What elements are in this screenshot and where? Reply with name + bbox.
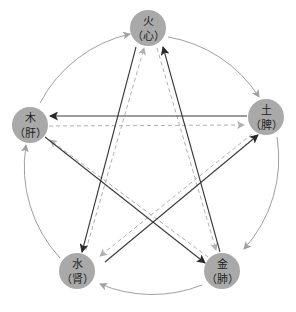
- line-metal-to-fire: [163, 47, 220, 252]
- organ-label: （心）: [132, 30, 165, 43]
- five-elements-diagram: 火 （心） 土 （脾） 金 （肺） 水 （肾） 木 （肝）: [0, 0, 296, 312]
- node-metal: 金 （肺）: [204, 253, 240, 289]
- dash-wood-to-earth: [49, 125, 244, 126]
- element-label: 土: [261, 104, 272, 117]
- line-fire-to-water: [82, 47, 136, 252]
- arc-metal-to-water: [100, 284, 202, 295]
- element-label: 水: [72, 258, 83, 271]
- node-fire: 火 （心）: [130, 10, 166, 46]
- arc-water-to-wood: [24, 145, 60, 258]
- arc-wood-to-fire: [40, 34, 130, 103]
- dash-metal-to-wood: [50, 140, 208, 257]
- generating-cycle: [24, 34, 278, 295]
- element-label: 火: [143, 15, 154, 28]
- insulting-cycle: [49, 48, 252, 257]
- dash-fire-to-metal: [157, 48, 216, 250]
- line-water-to-earth: [105, 135, 258, 262]
- dash-water-to-fire: [86, 48, 144, 250]
- line-wood-to-metal: [45, 137, 205, 263]
- organ-label: （脾）: [250, 118, 283, 132]
- node-water: 水 （肾）: [59, 253, 95, 289]
- organ-label: （肺）: [206, 273, 239, 286]
- node-wood: 木 （肝）: [12, 107, 48, 143]
- dash-earth-to-water: [100, 134, 252, 256]
- arc-earth-to-metal: [244, 137, 279, 249]
- organ-label: （肾）: [61, 273, 94, 286]
- node-earth: 土 （脾）: [248, 99, 284, 135]
- element-nodes: 火 （心） 土 （脾） 金 （肺） 水 （肾） 木 （肝）: [12, 10, 284, 289]
- arc-fire-to-earth: [168, 37, 259, 97]
- organ-label: （肝）: [14, 127, 47, 140]
- controlling-cycle: [45, 47, 258, 263]
- element-label: 金: [217, 257, 228, 271]
- element-label: 木: [25, 112, 36, 125]
